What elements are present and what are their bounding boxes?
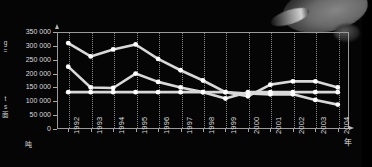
- data-point-marker: [268, 82, 273, 87]
- data-point-marker: [88, 90, 93, 95]
- data-point-marker: [156, 56, 161, 61]
- data-point-marker: [66, 64, 71, 69]
- data-point-marker: [111, 47, 116, 52]
- data-point-marker: [313, 79, 318, 84]
- data-point-marker: [290, 92, 295, 97]
- data-point-marker: [111, 90, 116, 95]
- data-point-marker: [201, 90, 206, 95]
- data-point-marker: [335, 90, 340, 95]
- data-point-marker: [66, 90, 71, 95]
- data-point-marker: [88, 54, 93, 59]
- data-point-marker: [313, 90, 318, 95]
- data-point-marker: [111, 86, 116, 91]
- data-point-marker: [335, 102, 340, 107]
- data-point-marker: [178, 85, 183, 90]
- data-point-marker: [223, 90, 228, 95]
- data-point-marker: [133, 90, 138, 95]
- data-point-marker: [201, 78, 206, 83]
- data-point-marker: [66, 41, 71, 46]
- data-point-marker: [133, 71, 138, 76]
- data-point-marker: [313, 98, 318, 103]
- data-point-marker: [156, 90, 161, 95]
- data-point-marker: [178, 68, 183, 73]
- data-point-marker: [156, 79, 161, 84]
- data-point-marker: [268, 92, 273, 97]
- data-point-marker: [335, 85, 340, 90]
- data-point-marker: [290, 79, 295, 84]
- data-point-marker: [178, 90, 183, 95]
- data-point-marker: [133, 42, 138, 47]
- data-point-marker: [223, 96, 228, 101]
- data-point-marker: [246, 91, 251, 96]
- data-point-marker: [88, 85, 93, 90]
